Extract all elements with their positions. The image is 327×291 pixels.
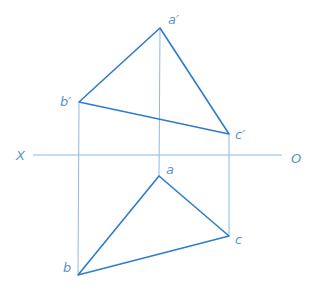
label-b: b (63, 260, 71, 275)
label-o: O (291, 151, 301, 166)
label-a-prime: a′ (168, 12, 179, 27)
label-x: X (15, 148, 26, 163)
triangle-front-view (79, 28, 229, 134)
projection-diagram: a′ b′ c′ X O a b c (0, 0, 327, 291)
label-c: c (235, 232, 242, 247)
projector-b (78, 102, 79, 275)
triangle-top-view (78, 176, 229, 275)
label-c-prime: c′ (235, 127, 245, 142)
label-a: a (166, 162, 174, 177)
projector-a (159, 28, 160, 176)
label-b-prime: b′ (60, 94, 71, 109)
